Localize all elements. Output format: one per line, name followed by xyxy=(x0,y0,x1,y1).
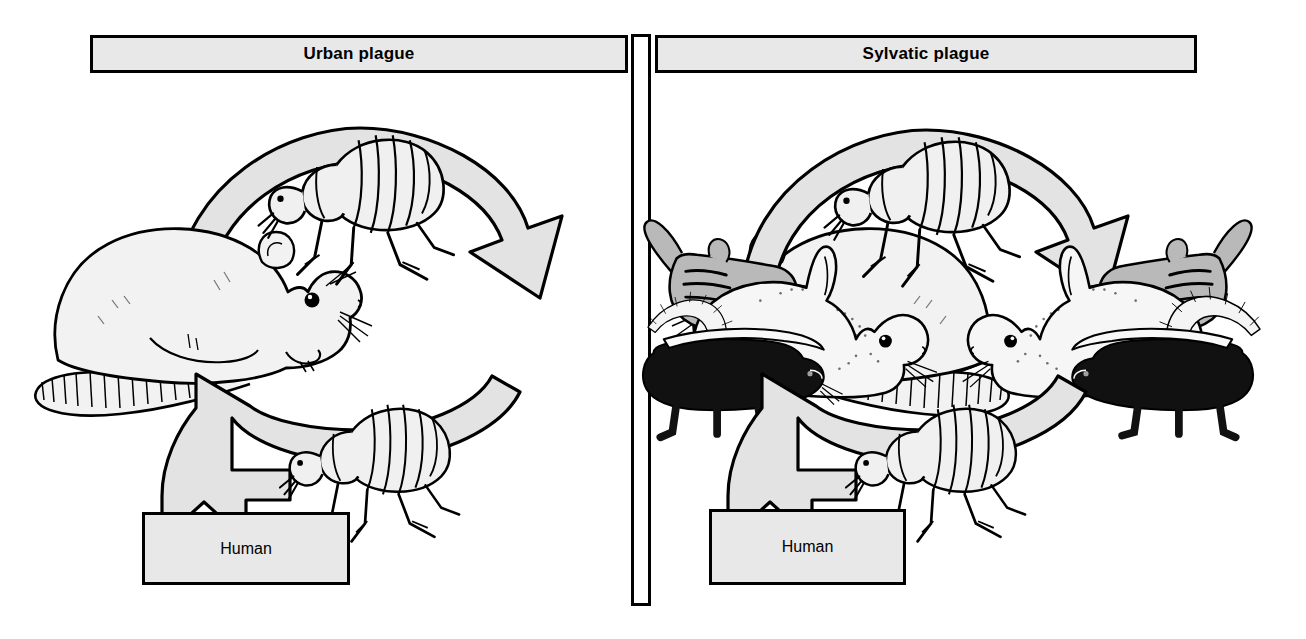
rat-icon-urban-left xyxy=(35,229,372,416)
human-label-sylvatic: Human xyxy=(782,538,834,556)
panel-title-sylvatic-label: Sylvatic plague xyxy=(863,44,990,64)
chipmunk-icon-sylvatic-left xyxy=(644,220,822,350)
flea-icon-sylvatic-top xyxy=(825,137,1020,286)
human-label-urban: Human xyxy=(220,540,272,558)
rabbit-icon-sylvatic-right xyxy=(959,247,1203,397)
flea-icon-urban-top xyxy=(259,135,454,284)
curved-arrow-icon-sylvatic-top xyxy=(742,130,1128,298)
skunk-icon-sylvatic-right xyxy=(1053,329,1253,437)
vertical-divider-icon xyxy=(631,34,651,606)
rat-icon-urban-right xyxy=(672,229,1009,416)
curved-arrow-icon-urban-top xyxy=(175,128,562,298)
panel-title-urban-label: Urban plague xyxy=(303,44,414,64)
human-box-sylvatic: Human xyxy=(709,509,906,585)
panel-title-urban: Urban plague xyxy=(90,35,628,73)
skunk-icon-sylvatic-left xyxy=(643,329,843,437)
bushy-tail-icon-sylvatic-left xyxy=(648,292,736,393)
bushy-tail-icon-sylvatic-right xyxy=(1155,287,1260,407)
human-box-urban: Human xyxy=(142,512,350,585)
panel-title-sylvatic: Sylvatic plague xyxy=(655,35,1197,73)
diagram-canvas: Urban plague Sylvatic plague xyxy=(0,0,1306,639)
rabbit-icon-sylvatic-left xyxy=(693,247,937,397)
chipmunk-icon-sylvatic-right xyxy=(1074,220,1252,350)
